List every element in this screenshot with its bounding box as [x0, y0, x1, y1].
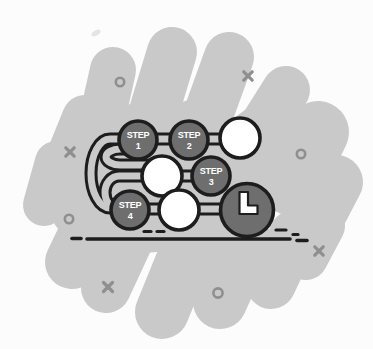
- step-1-number: 1: [136, 141, 141, 151]
- step-node-2: STEP 2: [170, 121, 208, 159]
- step-1-word: STEP: [127, 130, 150, 140]
- step-3-word: STEP: [200, 166, 223, 176]
- empty-node-row3: [159, 190, 199, 230]
- step-node-3: STEP 3: [192, 157, 230, 195]
- step-4-word: STEP: [119, 200, 142, 210]
- step-node-4: STEP 4: [111, 191, 149, 229]
- step-2-number: 2: [187, 141, 192, 151]
- finish-node: [221, 184, 274, 237]
- step-4-number: 4: [128, 211, 133, 221]
- step-2-word: STEP: [178, 130, 201, 140]
- step-node-1: STEP 1: [119, 121, 157, 159]
- process-steps-illustration: STEP 1 STEP 2 STEP 3 STEP 4: [0, 0, 373, 349]
- empty-node-row1: [220, 118, 260, 158]
- faint-smudge: [90, 28, 101, 37]
- step-3-number: 3: [209, 177, 214, 187]
